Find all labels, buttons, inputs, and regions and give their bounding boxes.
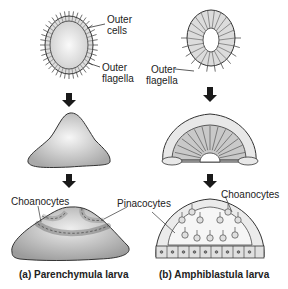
label-choanocytes-left: Choanocytes [11, 196, 69, 207]
label-outer-flagella-left-line1: Outer [102, 62, 134, 73]
label-pinacocytes: Pinacocytes [117, 198, 171, 209]
amphiblastula-stage-2 [162, 114, 258, 165]
label-outer-cells: Outer cells [107, 14, 132, 36]
label-outer-flagella-left: Outer flagella [102, 62, 134, 84]
arrow-down-icon [203, 174, 217, 188]
label-outer-cells-line2: cells [107, 25, 132, 36]
arrow-down-icon [62, 93, 76, 107]
label-outer-cells-line1: Outer [107, 14, 132, 25]
sponge-larvae-diagram [0, 0, 288, 289]
label-outer-flagella-right-line1: Outer [146, 64, 176, 75]
arrow-down-icon [203, 87, 217, 102]
arrow-down-icon [62, 174, 76, 188]
amphiblastula-stage-1 [175, 10, 241, 72]
label-outer-flagella-left-line2: flagella [102, 73, 134, 84]
parenchymula-stage-1 [40, 11, 105, 79]
label-choanocytes-right: Choanocytes [221, 189, 279, 200]
caption-amphiblastula: (b) Amphiblastula larva [159, 269, 269, 280]
label-outer-flagella-right-line2: flagella [146, 75, 176, 86]
parenchymula-larva [12, 206, 129, 261]
caption-parenchymula: (a) Parenchymula larva [19, 269, 129, 280]
parenchymula-stage-2 [28, 113, 110, 168]
label-outer-flagella-right: Outer flagella [146, 64, 176, 86]
